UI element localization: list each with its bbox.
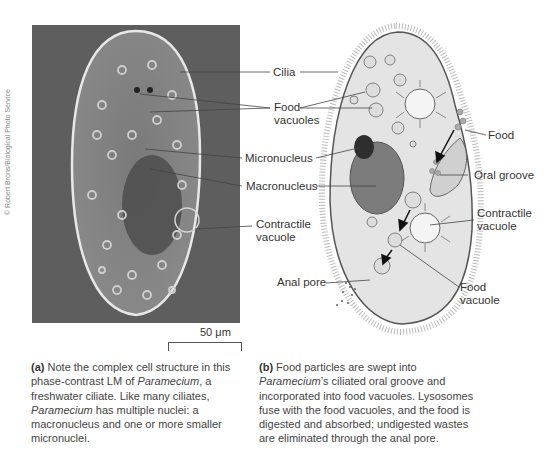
caption-b: (b) Food particles are swept into Parame… bbox=[259, 360, 474, 446]
label-food-vacuoles-line2: vacuoles bbox=[274, 114, 319, 127]
caption-a-tag: (a) bbox=[31, 361, 44, 373]
label-food: Food bbox=[488, 129, 514, 142]
label-food-vacuole-line1: Food bbox=[460, 281, 486, 294]
label-cilia: Cilia bbox=[273, 66, 295, 79]
label-food-vacuoles-line1: Food bbox=[274, 101, 300, 114]
label-food-vacuole-line2: vacuole bbox=[460, 294, 500, 307]
label-anal-pore: Anal pore bbox=[277, 276, 326, 289]
label-contractile-vacuole-left-line1: Contractile bbox=[256, 218, 311, 231]
caption-a: (a) Note the complex cell structure in t… bbox=[31, 360, 231, 446]
label-contractile-vacuole-right-line1: Contractile bbox=[477, 207, 532, 220]
label-micronucleus: Micronucleus bbox=[245, 152, 313, 165]
label-contractile-vacuole-right-line2: vacuole bbox=[477, 220, 517, 233]
label-macronucleus: Macronucleus bbox=[246, 180, 318, 193]
label-oral-groove: Oral groove bbox=[474, 169, 534, 182]
caption-b-tag: (b) bbox=[259, 361, 273, 373]
scale-bar-label: 50 μm bbox=[200, 326, 231, 338]
label-contractile-vacuole-left-line2: vacuole bbox=[256, 231, 296, 244]
scale-bar bbox=[168, 342, 242, 351]
